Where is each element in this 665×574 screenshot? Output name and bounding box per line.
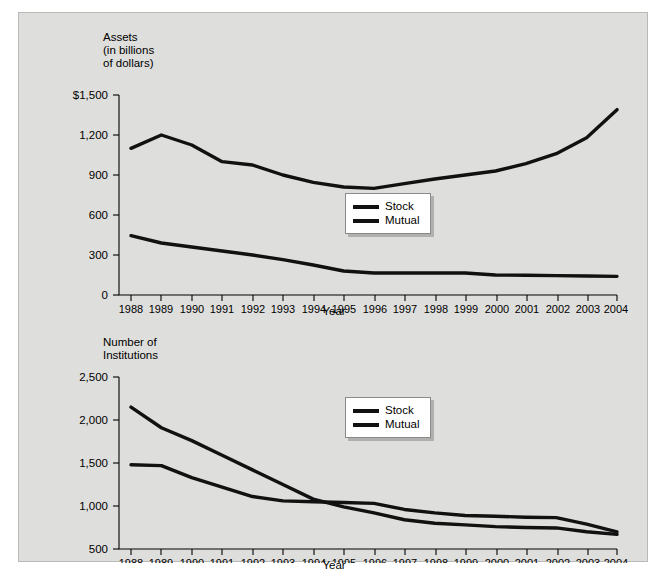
assets-legend-item-stock: Stock: [353, 200, 420, 213]
assets-ytick-2: 900: [89, 169, 108, 181]
assets-ytick-4: 300: [89, 249, 108, 261]
assets-series-mutual: [131, 236, 617, 277]
line-swatch-icon: [353, 205, 379, 209]
institutions-series-stock: [131, 465, 617, 532]
institutions-x-tick-marks: [131, 549, 617, 555]
institutions-ytick-1: 2,000: [79, 414, 108, 426]
assets-legend: Stock Mutual: [345, 193, 431, 234]
line-swatch-icon: [353, 423, 379, 427]
institutions-chart: Number of Institutions 2,500 2,000 1,500…: [19, 318, 649, 563]
assets-ytick-5: 0: [102, 289, 108, 301]
institutions-ytick-3: 1,000: [79, 500, 108, 512]
line-swatch-icon: [353, 409, 379, 413]
assets-x-axis-label: Year: [19, 305, 649, 318]
institutions-legend-label-mutual: Mutual: [385, 418, 420, 431]
institutions-ytick-2: 1,500: [79, 457, 108, 469]
assets-plot-area: $1,500 1,200 900 600 300 0: [19, 13, 649, 318]
institutions-plot-area: 2,500 2,000 1,500 1,000 500: [19, 318, 649, 563]
institutions-y-tick-marks: [113, 377, 119, 549]
line-swatch-icon: [353, 219, 379, 223]
assets-ytick-0: $1,500: [73, 89, 108, 101]
institutions-ytick-4: 500: [89, 543, 108, 555]
institutions-ytick-0: 2,500: [79, 371, 108, 383]
assets-x-tick-marks: [131, 295, 617, 301]
assets-legend-label-stock: Stock: [385, 200, 414, 213]
institutions-x-axis-label: Year: [19, 559, 649, 572]
assets-series-stock: [131, 110, 617, 189]
assets-ytick-1: 1,200: [79, 129, 108, 141]
institutions-legend: Stock Mutual: [345, 397, 431, 438]
institutions-legend-label-stock: Stock: [385, 404, 414, 417]
assets-legend-item-mutual: Mutual: [353, 214, 420, 227]
figure-panel: Assets (in billions of dollars) $1,500 1…: [18, 12, 648, 562]
assets-legend-label-mutual: Mutual: [385, 214, 420, 227]
institutions-legend-item-stock: Stock: [353, 404, 420, 417]
assets-y-tick-marks: [113, 95, 119, 295]
assets-chart: Assets (in billions of dollars) $1,500 1…: [19, 13, 649, 318]
institutions-legend-item-mutual: Mutual: [353, 418, 420, 431]
assets-ytick-3: 600: [89, 209, 108, 221]
